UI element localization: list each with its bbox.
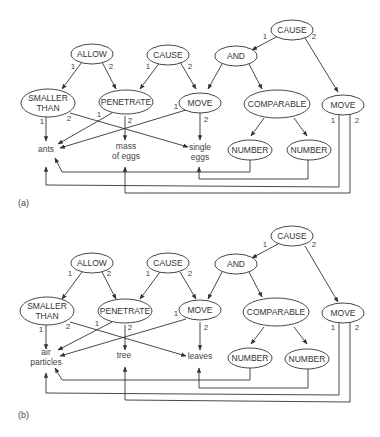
arg-label: 1	[331, 323, 336, 332]
svg-text:single: single	[189, 142, 211, 152]
svg-text:NUMBER: NUMBER	[232, 145, 269, 155]
node-cause: CAUSE	[147, 45, 189, 65]
node-cause: CAUSE	[147, 253, 189, 273]
svg-text:PENETRATE: PENETRATE	[101, 97, 152, 107]
svg-text:leaves: leaves	[188, 351, 213, 361]
arg-label: 1	[146, 62, 151, 71]
leaf-ants: ants	[38, 144, 54, 154]
svg-text:tree: tree	[117, 350, 132, 360]
arg-label: 1	[331, 116, 336, 125]
svg-text:particles: particles	[30, 357, 62, 367]
arg-label: 2	[188, 269, 193, 278]
arg-label: 2	[107, 269, 112, 278]
arg-label: 2	[204, 323, 209, 332]
arg-label: 2	[312, 240, 317, 249]
arg-label: 1	[68, 269, 73, 278]
leaf-mass-of-eggs: mass of eggs	[112, 141, 140, 161]
arg-label: 2	[188, 62, 193, 71]
svg-text:air: air	[41, 347, 51, 357]
node-move-2: MOVE	[322, 303, 364, 323]
arg-label: 2	[204, 115, 209, 124]
node-allow: ALLOW	[71, 253, 113, 273]
arg-label: 2	[355, 116, 360, 125]
leaf-leaves: leaves	[188, 351, 213, 361]
arg-label: 2	[67, 114, 72, 123]
node-number-2: NUMBER	[287, 140, 331, 160]
leaf-single-eggs: single eggs	[189, 142, 211, 162]
panel-a: 1 2 1 2 1 2 1 2 1 2 1 2 1 2 ALLOW CAUSE …	[18, 20, 364, 208]
node-smaller-than: SMALLER THAN	[20, 297, 74, 325]
svg-text:MOVE: MOVE	[330, 100, 355, 110]
svg-text:CAUSE: CAUSE	[153, 50, 183, 60]
node-move-2: MOVE	[322, 95, 364, 115]
svg-text:AND: AND	[227, 51, 245, 61]
arg-label: 1	[95, 319, 100, 328]
leaf-air-particles: air particles	[30, 347, 62, 367]
arg-label: 2	[312, 32, 317, 41]
svg-text:PENETRATE: PENETRATE	[100, 306, 151, 316]
node-allow: ALLOW	[71, 44, 113, 64]
svg-text:of eggs: of eggs	[112, 151, 140, 161]
svg-text:mass: mass	[116, 141, 136, 151]
svg-text:COMPARABLE: COMPARABLE	[248, 99, 307, 109]
svg-text:MOVE: MOVE	[187, 98, 212, 108]
arg-label: 2	[109, 62, 114, 71]
node-cause-top: CAUSE	[271, 226, 313, 246]
svg-text:ALLOW: ALLOW	[77, 258, 107, 268]
node-move: MOVE	[179, 300, 221, 320]
arg-label: 1	[263, 240, 268, 249]
arg-label: 1	[174, 102, 179, 111]
svg-text:CAUSE: CAUSE	[153, 258, 183, 268]
panel-b-caption: (b)	[18, 410, 29, 420]
arg-label: 2	[128, 323, 133, 332]
arg-label: 2	[355, 323, 360, 332]
arg-label: 1	[174, 309, 179, 318]
node-number-2: NUMBER	[285, 349, 329, 369]
svg-text:CAUSE: CAUSE	[277, 25, 307, 35]
svg-text:MOVE: MOVE	[330, 308, 355, 318]
arg-label: 1	[40, 117, 45, 126]
leaf-tree: tree	[117, 350, 132, 360]
node-number-1: NUMBER	[228, 348, 272, 368]
node-comparable: COMPARABLE	[244, 90, 310, 118]
node-move: MOVE	[179, 93, 221, 113]
svg-text:NUMBER: NUMBER	[291, 145, 328, 155]
panel-a-caption: (a)	[18, 198, 29, 208]
arg-label: 1	[71, 62, 76, 71]
arg-label: 1	[263, 32, 268, 41]
svg-text:SMALLER: SMALLER	[27, 301, 67, 311]
node-and: AND	[215, 254, 257, 274]
arg-label: 2	[66, 322, 71, 331]
svg-text:THAN: THAN	[35, 311, 58, 321]
svg-text:COMPARABLE: COMPARABLE	[247, 307, 306, 317]
node-cause-top: CAUSE	[271, 20, 313, 40]
svg-text:ants: ants	[38, 144, 54, 154]
node-number-1: NUMBER	[228, 140, 272, 160]
svg-text:NUMBER: NUMBER	[289, 354, 326, 364]
svg-text:AND: AND	[227, 259, 245, 269]
svg-text:CAUSE: CAUSE	[277, 231, 307, 241]
svg-text:NUMBER: NUMBER	[232, 353, 269, 363]
arg-label: 1	[97, 110, 102, 119]
arg-label: 1	[146, 269, 151, 278]
arg-label: 2	[128, 116, 133, 125]
node-penetrate: PENETRATE	[98, 299, 152, 323]
node-and: AND	[215, 46, 257, 66]
svg-text:THAN: THAN	[36, 103, 59, 113]
node-comparable: COMPARABLE	[243, 298, 309, 326]
svg-text:eggs: eggs	[191, 152, 209, 162]
svg-text:ALLOW: ALLOW	[77, 49, 107, 59]
svg-text:SMALLER: SMALLER	[28, 93, 68, 103]
arg-label: 1	[39, 325, 44, 334]
svg-text:MOVE: MOVE	[187, 305, 212, 315]
panel-b: 1 2 1 2 1 2 1 2 1 2 1 2 1 2 ALLOW CAUSE …	[18, 226, 364, 420]
analogy-structure-diagram: 1 2 1 2 1 2 1 2 1 2 1 2 1 2 ALLOW CAUSE …	[0, 0, 380, 437]
node-smaller-than: SMALLER THAN	[21, 89, 75, 117]
node-penetrate: PENETRATE	[99, 90, 153, 114]
